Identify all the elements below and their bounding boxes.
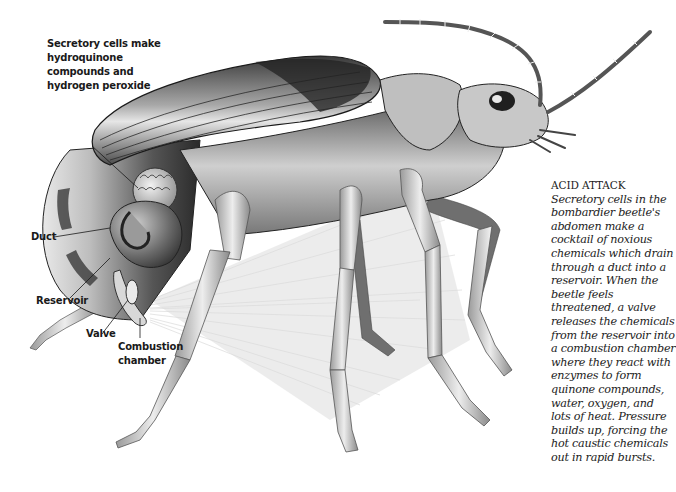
label-valve: Valve xyxy=(86,327,116,341)
label-line: Combustion xyxy=(118,340,183,354)
label-line: compounds and xyxy=(47,65,161,79)
caption: ACID ATTACK Secretory cells in the bomba… xyxy=(551,179,676,464)
label-line: Secretory cells make xyxy=(47,37,161,51)
label-line: chamber xyxy=(118,354,183,368)
label-combustion-chamber: Combustion chamber xyxy=(118,340,183,368)
caption-lead: ACID ATTACK xyxy=(551,179,629,191)
label-reservoir: Reservoir xyxy=(36,294,88,308)
beetle-diagram: Secretory cells make hydroquinone compou… xyxy=(0,0,676,492)
label-line: hydrogen peroxide xyxy=(47,79,161,93)
label-secretory-cells: Secretory cells make hydroquinone compou… xyxy=(47,37,161,93)
label-duct: Duct xyxy=(31,230,56,244)
label-line: hydroquinone xyxy=(47,51,161,65)
caption-body: Secretory cells in the bombardier beetle… xyxy=(551,193,675,464)
